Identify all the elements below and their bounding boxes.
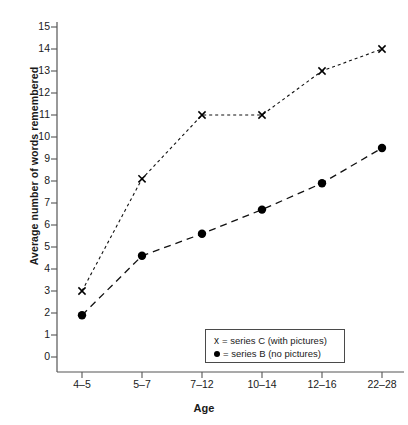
data-point-marker bbox=[138, 252, 146, 260]
data-point-marker bbox=[318, 179, 326, 187]
legend-item-series-b: = series B (no pictures) bbox=[214, 348, 321, 359]
series-line-c bbox=[82, 49, 382, 291]
series-line-b bbox=[82, 148, 382, 315]
data-point-marker bbox=[258, 205, 266, 213]
data-point-marker bbox=[318, 67, 325, 74]
data-point-marker bbox=[78, 287, 85, 294]
x-marker-icon: x bbox=[214, 336, 219, 346]
chart-legend: x = series C (with pictures) = series B … bbox=[205, 329, 345, 363]
legend-item-series-c: x = series C (with pictures) bbox=[214, 335, 327, 346]
chart-plot-area bbox=[0, 0, 408, 425]
axis-lines bbox=[57, 22, 404, 372]
data-point-marker bbox=[378, 144, 386, 152]
data-point-marker bbox=[78, 311, 86, 319]
legend-label-series-c: = series C (with pictures) bbox=[222, 335, 327, 346]
chart-container: Average number of words remembered Age 0… bbox=[0, 0, 408, 425]
data-point-marker bbox=[138, 175, 145, 182]
data-series-layer bbox=[78, 45, 386, 319]
legend-label-series-b: = series B (no pictures) bbox=[223, 348, 321, 359]
circle-marker-icon bbox=[214, 351, 220, 357]
data-point-marker bbox=[378, 45, 385, 52]
data-point-marker bbox=[198, 230, 206, 238]
x-axis-ticks bbox=[82, 372, 382, 378]
y-axis-ticks bbox=[51, 27, 57, 357]
